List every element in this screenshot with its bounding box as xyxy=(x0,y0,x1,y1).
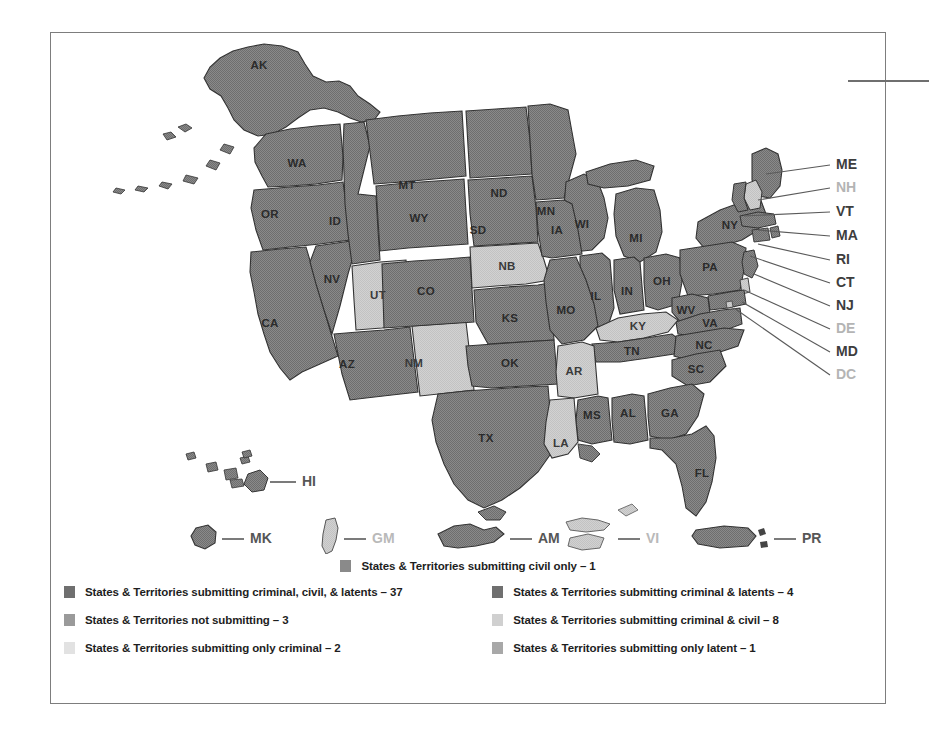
state-label-AR: AR xyxy=(565,365,583,377)
state-label-WV: WV xyxy=(676,304,695,316)
legend-label-only-latent: States & Territories submitting only lat… xyxy=(513,642,755,654)
state-label-NY: NY xyxy=(722,219,739,231)
state-label-OR: OR xyxy=(261,208,279,220)
callout-line-DE xyxy=(744,290,830,329)
legend-item-criminal-civil: States & Territories submitting criminal… xyxy=(492,614,872,626)
legend-item-civil-only: States & Territories submitting civil on… xyxy=(58,560,878,572)
state-label-IL: IL xyxy=(591,290,602,302)
state-label-MN: MN xyxy=(537,205,556,217)
state-label-TX: TX xyxy=(478,432,493,444)
state-label-OK: OK xyxy=(501,357,519,369)
legend-swatch-not-submitting xyxy=(64,614,75,626)
territory-shape-PR xyxy=(692,526,768,548)
legend-label-criminal-latents: States & Territories submitting criminal… xyxy=(513,586,793,598)
state-shape-DC xyxy=(726,301,733,308)
callout-line-DC xyxy=(734,308,830,375)
legend-label-only-criminal: States & Territories submitting only cri… xyxy=(85,642,341,654)
state-label-IN: IN xyxy=(621,285,633,297)
state-label-NV: NV xyxy=(324,273,341,285)
state-shape-LA-delta xyxy=(578,444,600,462)
state-shape-WA xyxy=(254,124,343,187)
callout-label-DC: DC xyxy=(836,366,856,382)
callout-label-HI: HI xyxy=(302,473,316,489)
state-label-MT: MT xyxy=(398,179,415,191)
state-label-ID: ID xyxy=(329,215,341,227)
callout-label-VI: VI xyxy=(646,530,659,546)
state-label-PA: PA xyxy=(702,261,718,273)
state-label-CA: CA xyxy=(261,317,278,329)
state-shape-NJ xyxy=(742,250,758,278)
map-svg: AK WA OR ID MT ND MN SD WI MI NY WY IA N… xyxy=(58,34,878,554)
map-legend: States & Territories submitting civil on… xyxy=(58,560,878,690)
state-label-MO: MO xyxy=(556,304,575,316)
legend-item-criminal-civil-latents: States & Territories submitting criminal… xyxy=(64,586,444,598)
legend-columns: States & Territories submitting criminal… xyxy=(58,586,878,670)
callout-label-NJ: NJ xyxy=(836,297,854,313)
legend-label-criminal-civil-latents: States & Territories submitting criminal… xyxy=(85,586,403,598)
legend-right-column: States & Territories submitting criminal… xyxy=(492,586,872,670)
state-label-AL: AL xyxy=(620,407,636,419)
callout-line-RI xyxy=(758,244,830,260)
state-label-ND: ND xyxy=(490,187,507,199)
state-label-SD: SD xyxy=(470,224,487,236)
territory-shape-VI xyxy=(566,504,638,550)
state-shape-MI-upper xyxy=(586,160,654,188)
state-label-KY: KY xyxy=(630,320,647,332)
legend-swatch-only-criminal xyxy=(64,642,75,654)
state-label-WA: WA xyxy=(287,157,306,169)
legend-label-criminal-civil: States & Territories submitting criminal… xyxy=(513,614,779,626)
state-shape-HI xyxy=(186,450,268,492)
state-label-FL: FL xyxy=(695,467,710,479)
callout-label-MA: MA xyxy=(836,227,858,243)
state-label-AK: AK xyxy=(250,59,268,71)
callout-label-ME: ME xyxy=(836,156,857,172)
state-shape-MT xyxy=(366,111,466,184)
legend-label-not-submitting: States & Territories not submitting – 3 xyxy=(85,614,289,626)
state-label-OH: OH xyxy=(653,275,671,287)
state-label-GA: GA xyxy=(661,407,679,419)
callout-label-CT: CT xyxy=(836,274,855,290)
legend-label-civil-only: States & Territories submitting civil on… xyxy=(361,560,595,572)
legend-swatch-criminal-civil-latents xyxy=(64,586,75,598)
callout-label-RI: RI xyxy=(836,251,850,267)
state-label-MI: MI xyxy=(629,232,642,244)
callout-HI: HI xyxy=(270,473,316,489)
state-label-NM: NM xyxy=(405,357,424,369)
territory-shape-MK xyxy=(191,525,216,549)
legend-swatch-criminal-latents xyxy=(492,586,503,598)
legend-left-column: States & Territories submitting criminal… xyxy=(64,586,444,670)
callout-label-MK: MK xyxy=(250,530,272,546)
state-label-MS: MS xyxy=(583,409,601,421)
state-label-KS: KS xyxy=(502,312,519,324)
state-label-VA: VA xyxy=(702,317,718,329)
state-shape-ND xyxy=(466,107,532,178)
state-shape-TX xyxy=(432,386,558,508)
state-label-WY: WY xyxy=(409,212,428,224)
state-label-IA: IA xyxy=(551,224,563,236)
legend-swatch-civil-only xyxy=(340,560,351,572)
state-label-AZ: AZ xyxy=(339,358,355,370)
state-label-UT: UT xyxy=(370,289,386,301)
us-map: AK WA OR ID MT ND MN SD WI MI NY WY IA N… xyxy=(58,34,878,554)
legend-swatch-only-latent xyxy=(492,642,503,654)
screenshot-root: AK WA OR ID MT ND MN SD WI MI NY WY IA N… xyxy=(0,0,929,738)
legend-item-not-submitting: States & Territories not submitting – 3 xyxy=(64,614,444,626)
callout-label-MD: MD xyxy=(836,343,858,359)
callout-label-NH: NH xyxy=(836,179,856,195)
territory-shape-GM xyxy=(322,518,338,554)
callout-label-VT: VT xyxy=(836,203,854,219)
legend-item-criminal-latents: States & Territories submitting criminal… xyxy=(492,586,872,598)
state-shape-MI xyxy=(614,188,662,262)
legend-item-only-criminal: States & Territories submitting only cri… xyxy=(64,642,444,654)
callout-label-AM: AM xyxy=(538,530,560,546)
state-label-WI: WI xyxy=(575,218,590,230)
state-label-TN: TN xyxy=(624,345,640,357)
callout-line-CT xyxy=(750,256,830,283)
state-label-SC: SC xyxy=(688,363,705,375)
legend-item-only-latent: States & Territories submitting only lat… xyxy=(492,642,872,654)
state-label-NC: NC xyxy=(695,339,712,351)
territory-shape-AM xyxy=(438,506,506,548)
callout-label-DE: DE xyxy=(836,320,855,336)
callout-labels: ME NH VT MA RI CT NJ DE MD DC xyxy=(836,156,858,382)
callout-label-GM: GM xyxy=(372,530,395,546)
